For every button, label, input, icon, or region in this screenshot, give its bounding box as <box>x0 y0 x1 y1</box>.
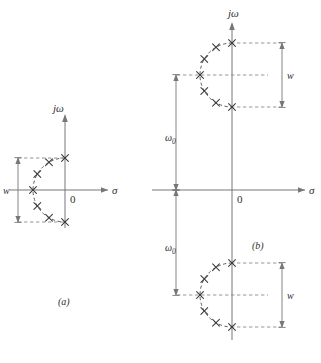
pole-mark <box>201 88 208 95</box>
pole-mark <box>213 99 220 106</box>
dimension-label-w-b-upper: w <box>287 70 294 81</box>
dimension-omega0-upper <box>172 74 179 191</box>
pole-zero-figure: jω σ 0 w <box>0 0 321 363</box>
figure-container: jω σ 0 w <box>0 0 321 363</box>
pole-mark <box>34 203 41 210</box>
jomega-axis-label-b: jω <box>226 7 239 19</box>
omega0-upper-base: ω <box>165 132 172 143</box>
dimension-omega0-lower <box>172 189 179 296</box>
bandpass-pole-plot: jω σ 0 w <box>152 7 315 340</box>
caption-b: (b) <box>252 240 264 252</box>
jomega-axis-label-a: jω <box>51 102 64 114</box>
sigma-axis-label-b: σ <box>309 184 315 196</box>
jomega-axis-a <box>62 114 68 228</box>
jomega-axis-b <box>229 22 235 340</box>
omega0-lower-sub: 0 <box>172 247 176 256</box>
pole-mark <box>201 56 208 63</box>
pole-mark <box>46 159 53 166</box>
caption-a: (a) <box>58 296 70 308</box>
lowpass-pole-plot: jω σ 0 w <box>3 102 118 308</box>
sigma-axis-a <box>10 187 108 193</box>
pole-mark <box>46 214 53 221</box>
omega0-upper-sub: 0 <box>172 137 176 146</box>
dimension-label-w-a: w <box>3 185 10 196</box>
dimension-w-b-upper <box>278 42 285 108</box>
pole-mark <box>213 44 220 51</box>
sigma-axis-label-a: σ <box>112 184 118 196</box>
origin-label-a: 0 <box>70 193 76 205</box>
pole-mark <box>34 171 41 178</box>
dimension-label-omega0-upper: ω 0 <box>165 132 176 146</box>
pole-mark <box>201 276 208 283</box>
dimension-w-b-lower <box>278 262 285 328</box>
origin-label-b: 0 <box>237 193 243 205</box>
pole-mark <box>213 264 220 271</box>
pole-mark <box>213 319 220 326</box>
pole-mark <box>201 308 208 315</box>
dimension-label-omega0-lower: ω 0 <box>165 242 176 256</box>
dimension-label-w-b-lower: w <box>287 290 294 301</box>
omega0-lower-base: ω <box>165 242 172 253</box>
